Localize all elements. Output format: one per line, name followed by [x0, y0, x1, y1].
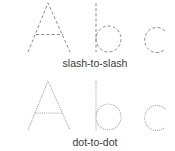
letter-b-dotted: [96, 81, 121, 130]
letter-a-dotted: [28, 81, 70, 130]
slash-to-slash-panel: slash-to-slash: [0, 0, 175, 75]
dot-to-dot-panel: dot-to-dot: [0, 78, 175, 151]
letter-c-dotted: [145, 106, 165, 131]
style-label-dot: dot-to-dot: [0, 136, 175, 148]
style-label-slash: slash-to-slash: [0, 57, 175, 69]
letter-b-traced: [96, 3, 121, 52]
letter-a-traced: [28, 3, 70, 52]
letter-c-traced: [145, 27, 165, 52]
